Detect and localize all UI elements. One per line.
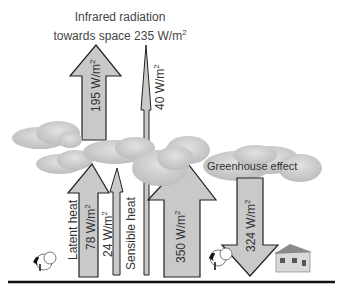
label-greenhouse-effect: Greenhouse effect: [207, 160, 297, 172]
energy-balance-diagram: [0, 0, 341, 296]
label-24: 24 W/m2: [100, 211, 115, 257]
title-line1: Infrared radiation: [40, 10, 200, 25]
title-line2: towards space 235 W/m2: [40, 25, 200, 44]
label-40: 40 W/m2: [152, 64, 167, 110]
label-324: 324 W/m2: [243, 200, 258, 252]
label-sensible-heat: Sensible heat: [124, 197, 138, 270]
house-icon: [274, 244, 312, 272]
label-195: 195 W/m2: [88, 60, 103, 112]
title: Infrared radiation towards space 235 W/m…: [40, 10, 200, 44]
cloud-left-top: [12, 121, 82, 149]
label-78: 78 W/m2: [83, 204, 98, 250]
tree-right-icon: [209, 248, 232, 270]
tree-left-icon: [33, 252, 56, 271]
label-350: 350 W/m2: [173, 211, 188, 263]
label-latent-heat: Latent heat: [66, 200, 80, 260]
